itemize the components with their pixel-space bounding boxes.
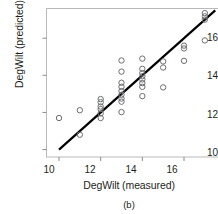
x-tick-label-14: 14	[119, 165, 143, 175]
data-point	[181, 58, 186, 63]
x-tick-label-10: 10	[37, 165, 61, 175]
data-point	[119, 69, 124, 74]
data-point	[160, 59, 165, 64]
data-point	[160, 65, 165, 70]
y-tick-label-16: 16	[196, 33, 218, 43]
figure-caption: (b)	[40, 199, 218, 210]
data-point	[140, 56, 145, 61]
reference-line	[59, 10, 215, 149]
data-point	[140, 93, 145, 98]
x-axis-title: DegWilt (measured)	[40, 179, 218, 191]
data-point	[160, 85, 165, 90]
scatter-plot-figure: DegWilt (predicted) 16 14 12 10 10 12 14…	[0, 0, 218, 214]
data-point	[77, 108, 82, 113]
x-tick-label-12: 12	[78, 165, 102, 175]
y-tick-label-10: 10	[196, 148, 218, 158]
data-point	[119, 58, 124, 63]
y-tick-label-12: 12	[196, 110, 218, 120]
y-axis-title: DegWilt (predicted)	[13, 0, 25, 119]
one-to-one-line	[59, 10, 215, 149]
y-tick-label-14: 14	[196, 71, 218, 81]
data-point	[140, 84, 145, 89]
data-point	[119, 109, 124, 114]
data-point	[77, 132, 82, 137]
data-point	[56, 115, 61, 120]
data-points	[56, 10, 207, 137]
x-tick-label-16: 16	[160, 165, 184, 175]
